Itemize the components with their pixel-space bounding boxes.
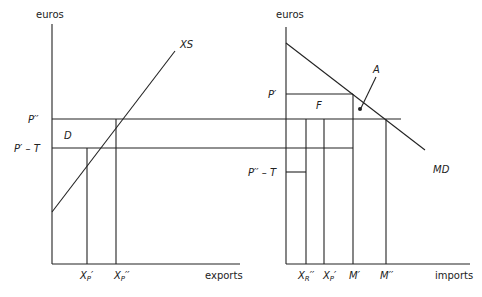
a-dot xyxy=(358,107,362,111)
price-p-prime-minus-t: P′ – T xyxy=(14,143,41,154)
area-f-label: F xyxy=(316,100,322,111)
tick-m-prime: M′ xyxy=(349,270,361,281)
right-x-axis-label: imports xyxy=(435,270,473,281)
md-curve xyxy=(286,43,425,150)
area-d-label: D xyxy=(64,130,72,141)
price-p-double-prime-minus-t: P′′ – T xyxy=(248,167,277,178)
price-p-double-prime: P′′ xyxy=(28,114,39,125)
tick-xr-double-prime: XR′′ xyxy=(297,270,315,283)
tick-m-double-prime: M′′ xyxy=(380,270,394,281)
xs-label: XS xyxy=(179,39,194,50)
a-pointer xyxy=(361,77,376,108)
tick-xp-prime: XP′ xyxy=(79,270,94,283)
left-x-axis-label: exports xyxy=(205,270,243,281)
tick-xp-prime-right: XP′ xyxy=(322,270,337,283)
right-panel: euros imports MD F A P′ P′′ – T XR′′ XP′… xyxy=(248,9,473,283)
tick-xp-double-prime: XP′′ xyxy=(113,270,130,283)
area-a-label: A xyxy=(372,64,380,75)
right-y-axis-label: euros xyxy=(276,9,304,20)
md-label: MD xyxy=(433,164,450,175)
price-p-prime: P′ xyxy=(268,89,277,100)
trade-diagram: euros exports XS D P′′ P′ – T XP′ XP′′ e… xyxy=(0,0,482,297)
left-panel: euros exports XS D P′′ P′ – T XP′ XP′′ xyxy=(14,9,243,283)
left-y-axis-label: euros xyxy=(36,9,64,20)
